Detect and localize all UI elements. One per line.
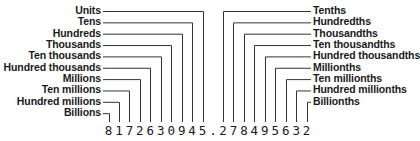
whole-digit: 9: [177, 124, 187, 137]
label-millionths: Millionths: [313, 62, 361, 73]
label-hundreds: Hundreds: [53, 28, 101, 39]
whole-digit: 6: [145, 124, 155, 137]
label-billions: Billions: [64, 107, 101, 118]
label-ten-thousands: Ten thousands: [28, 50, 101, 61]
label-hundred-millionths: Hundred millionths: [313, 84, 407, 95]
whole-digit: 2: [135, 124, 145, 137]
fraction-digit: 4: [249, 124, 259, 137]
fraction-digit: 5: [270, 124, 280, 137]
label-units: Units: [75, 5, 101, 16]
whole-digit: 8: [104, 124, 114, 137]
fraction-digit: 3: [291, 124, 301, 137]
label-hundred-thousandths: Hundred thousandths: [313, 50, 420, 61]
label-tens: Tens: [78, 16, 101, 27]
label-ten-millions: Ten millions: [42, 84, 101, 95]
label-hundredths: Hundredths: [313, 16, 371, 27]
whole-digit: 4: [187, 124, 197, 137]
decimal-point: .: [208, 124, 218, 137]
fraction-digit: 9: [260, 124, 270, 137]
label-hundred-millions: Hundred millions: [17, 96, 101, 107]
fraction-digit: 6: [281, 124, 291, 137]
label-hundred-thousands: Hundred thousands: [4, 62, 101, 73]
label-ten-thousandths: Ten thousandths: [313, 39, 395, 50]
whole-digit: 3: [156, 124, 166, 137]
fraction-digit: 2: [302, 124, 312, 137]
label-ten-millionths: Ten millionths: [313, 73, 382, 84]
fraction-digit: 7: [228, 124, 238, 137]
whole-digit: 1: [114, 124, 124, 137]
fraction-digit: 2: [218, 124, 228, 137]
label-tenths: Tenths: [313, 5, 346, 16]
label-billionths: Billionths: [313, 96, 360, 107]
fraction-digit: 8: [239, 124, 249, 137]
label-thousandths: Thousandths: [313, 28, 378, 39]
whole-digit: 0: [166, 124, 176, 137]
label-millions: Millions: [63, 73, 101, 84]
whole-digit: 5: [198, 124, 208, 137]
whole-digit: 7: [124, 124, 134, 137]
label-thousands: Thousands: [46, 39, 101, 50]
